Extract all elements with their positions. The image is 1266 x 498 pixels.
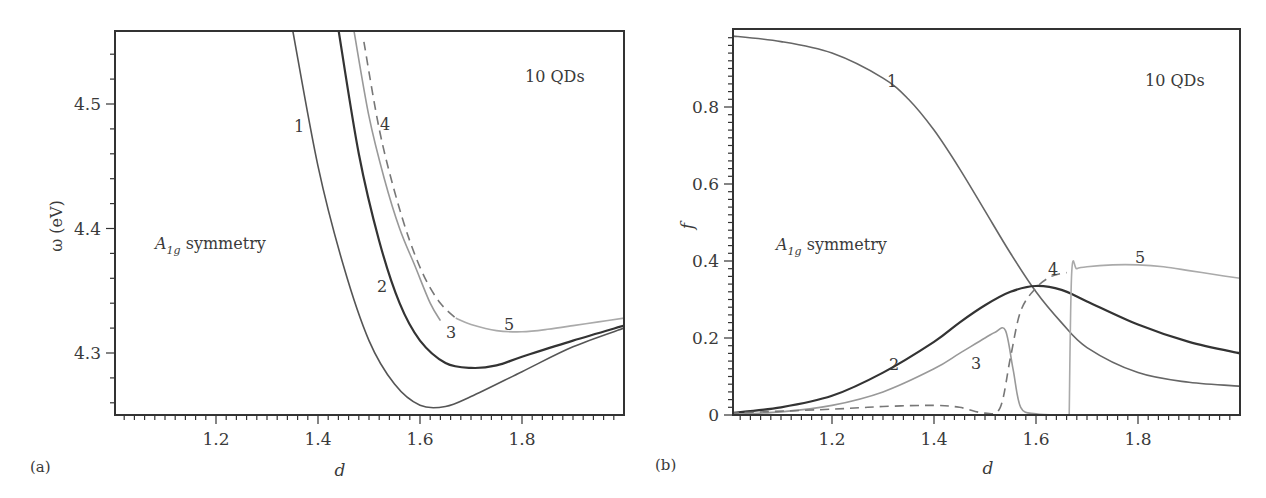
symmetry-text: symmetry xyxy=(181,234,266,253)
panel-a-label: (a) xyxy=(30,458,51,476)
figure: 1.21.41.61.8 4.34.44.5 d ω (eV) (a) 10 Q… xyxy=(0,0,1266,498)
panel-b-curve-labels: 1 2 3 4 5 xyxy=(887,72,1145,374)
symmetry-letter: A xyxy=(153,234,167,253)
x-tick-label: 1.6 xyxy=(1022,429,1049,449)
y-tick-label: 0.8 xyxy=(692,97,719,117)
y-tick-label: 4.5 xyxy=(74,94,101,114)
x-tick-label: 1.8 xyxy=(508,429,535,449)
panel-b-x-axis-label: d xyxy=(983,458,994,478)
curve-label-2: 2 xyxy=(377,277,387,296)
symmetry-subscript: 1g xyxy=(788,245,802,258)
x-tick-label: 1.4 xyxy=(920,429,947,449)
panel-a-curve-labels: 1 2 3 4 5 xyxy=(294,115,514,342)
panel-a-annotation-qds: 10 QDs xyxy=(525,67,585,86)
panel-b-annotation-symmetry: A1g symmetry xyxy=(774,235,887,258)
curve-label-3: 3 xyxy=(446,323,456,342)
symmetry-letter: A xyxy=(774,235,788,254)
series-2-line xyxy=(730,286,1240,413)
panel-b-chart: 1.21.41.61.8 00.20.40.60.8 d f (b) 10 QD… xyxy=(655,29,1240,478)
panel-a-curves xyxy=(293,29,625,408)
panel-b-x-axis: 1.21.41.61.8 xyxy=(740,415,1230,449)
y-tick-label: 4.3 xyxy=(74,343,101,363)
x-tick-label: 1.6 xyxy=(406,429,433,449)
y-tick-label: 0.4 xyxy=(692,251,719,271)
curve-label-1: 1 xyxy=(887,72,897,91)
panel-b-y-axis-label: f xyxy=(677,220,697,231)
panel-b-curves xyxy=(730,36,1240,415)
panel-b-y-axis: 00.20.40.60.8 xyxy=(692,38,733,425)
series-5-line xyxy=(1069,261,1240,415)
series-5-line xyxy=(456,318,624,332)
symmetry-subscript: 1g xyxy=(167,244,181,257)
y-tick-label: 0.2 xyxy=(692,328,719,348)
curve-label-5: 5 xyxy=(1135,248,1145,267)
curve-label-4: 4 xyxy=(1048,260,1058,279)
x-tick-label: 1.2 xyxy=(818,429,845,449)
x-tick-label: 1.8 xyxy=(1124,429,1151,449)
y-tick-label: 0.6 xyxy=(692,174,719,194)
curve-label-5: 5 xyxy=(504,315,514,334)
panel-b-annotation-qds: 10 QDs xyxy=(1145,71,1205,90)
curve-label-2: 2 xyxy=(889,355,899,374)
series-1-line xyxy=(293,29,625,408)
x-tick-label: 1.2 xyxy=(202,429,229,449)
panel-a-y-axis: 4.34.44.5 xyxy=(74,54,115,403)
panel-a-annotation-symmetry: A1g symmetry xyxy=(153,234,266,257)
panel-a-x-axis-label: d xyxy=(335,460,346,480)
panel-a-y-axis-label: ω (eV) xyxy=(47,200,66,252)
curve-label-1: 1 xyxy=(294,117,304,136)
panel-a-x-axis: 1.21.41.61.8 xyxy=(124,415,614,449)
curve-label-4: 4 xyxy=(380,115,390,134)
panel-b-label: (b) xyxy=(655,456,676,474)
y-tick-label: 0 xyxy=(708,405,719,425)
symmetry-text: symmetry xyxy=(802,235,887,254)
panel-a-chart: 1.21.41.61.8 4.34.44.5 d ω (eV) (a) 10 Q… xyxy=(30,29,624,480)
series-3-line xyxy=(354,29,441,320)
y-tick-label: 4.4 xyxy=(74,219,101,239)
panel-a-frame xyxy=(115,31,624,415)
curve-label-3: 3 xyxy=(971,354,981,373)
x-tick-label: 1.4 xyxy=(304,429,331,449)
